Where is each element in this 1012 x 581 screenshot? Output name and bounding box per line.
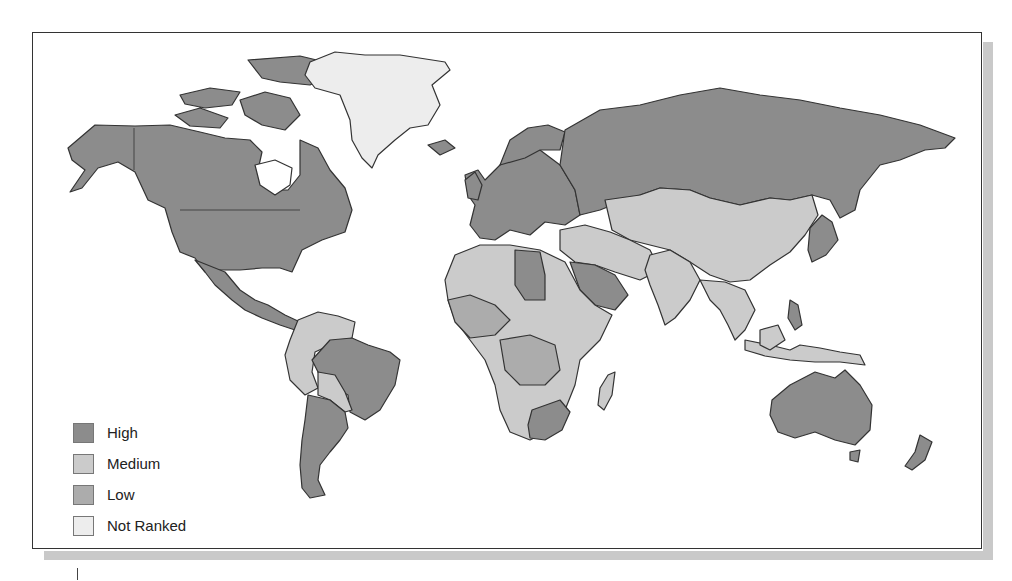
legend-label: High	[107, 424, 138, 441]
region-borneo	[760, 325, 785, 350]
region-southeast-asia	[700, 280, 755, 340]
region-iceland	[428, 140, 455, 155]
legend-label: Medium	[107, 455, 160, 472]
legend-item-low: Low	[73, 479, 186, 510]
legend-label: Not Ranked	[107, 517, 186, 534]
map-legend: High Medium Low Not Ranked	[73, 417, 186, 541]
legend-item-high: High	[73, 417, 186, 448]
region-philippines	[788, 300, 802, 330]
region-australia	[770, 370, 872, 445]
region-new-zealand	[905, 435, 932, 470]
region-madagascar	[598, 372, 615, 410]
legend-item-medium: Medium	[73, 448, 186, 479]
legend-item-not-ranked: Not Ranked	[73, 510, 186, 541]
legend-swatch-high	[73, 423, 94, 443]
region-tasmania	[850, 450, 860, 462]
legend-label: Low	[107, 486, 135, 503]
region-greenland	[305, 52, 450, 168]
region-north-america	[68, 125, 352, 272]
crop-tick-mark	[77, 568, 78, 580]
legend-swatch-medium	[73, 454, 94, 474]
legend-swatch-not-ranked	[73, 516, 94, 536]
region-libya	[515, 250, 545, 300]
legend-swatch-low	[73, 485, 94, 505]
region-mexico-central-america	[195, 260, 300, 330]
region-arctic-islands	[175, 56, 330, 130]
region-argentina-chile	[300, 395, 348, 498]
